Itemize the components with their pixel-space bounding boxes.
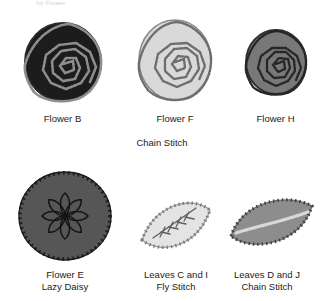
motif-flower-b — [22, 20, 104, 104]
motif-flower-f — [136, 17, 214, 103]
flower-h-drawing — [243, 27, 309, 97]
caption-leaves-d-j-line1: Leaves D and J — [212, 269, 322, 281]
motif-leaves-d-and-j — [228, 196, 316, 256]
caption-flower-h-line1: Flower H — [228, 113, 323, 125]
caption-flower-h: Flower H — [228, 113, 323, 125]
flower-f-drawing — [136, 17, 214, 103]
motif-leaves-c-and-i — [138, 196, 214, 256]
caption-flower-f-line1: Flower F — [125, 113, 225, 125]
leaves-c-i-drawing — [138, 196, 214, 256]
caption-flower-f: Flower F — [125, 113, 225, 125]
caption-flower-e-line2: Lazy Daisy — [12, 281, 118, 293]
illustration-plate: for Flower Flower B — [0, 0, 325, 301]
caption-flower-b: Flower B — [10, 113, 115, 125]
group-caption-row1: Chain Stitch — [112, 137, 212, 149]
flower-b-drawing — [22, 20, 104, 104]
motif-flower-h — [243, 27, 309, 97]
leaves-d-j-drawing — [228, 196, 316, 256]
cropped-header-text: for Flower — [36, 0, 98, 6]
flower-e-drawing — [16, 169, 114, 263]
caption-leaves-d-and-j: Leaves D and J Chain Stitch — [212, 269, 322, 292]
caption-flower-e: Flower E Lazy Daisy — [12, 269, 118, 292]
caption-flower-e-line1: Flower E — [12, 269, 118, 281]
motif-flower-e — [16, 169, 114, 263]
caption-flower-b-line1: Flower B — [10, 113, 115, 125]
caption-leaves-d-j-line2: Chain Stitch — [212, 281, 322, 293]
